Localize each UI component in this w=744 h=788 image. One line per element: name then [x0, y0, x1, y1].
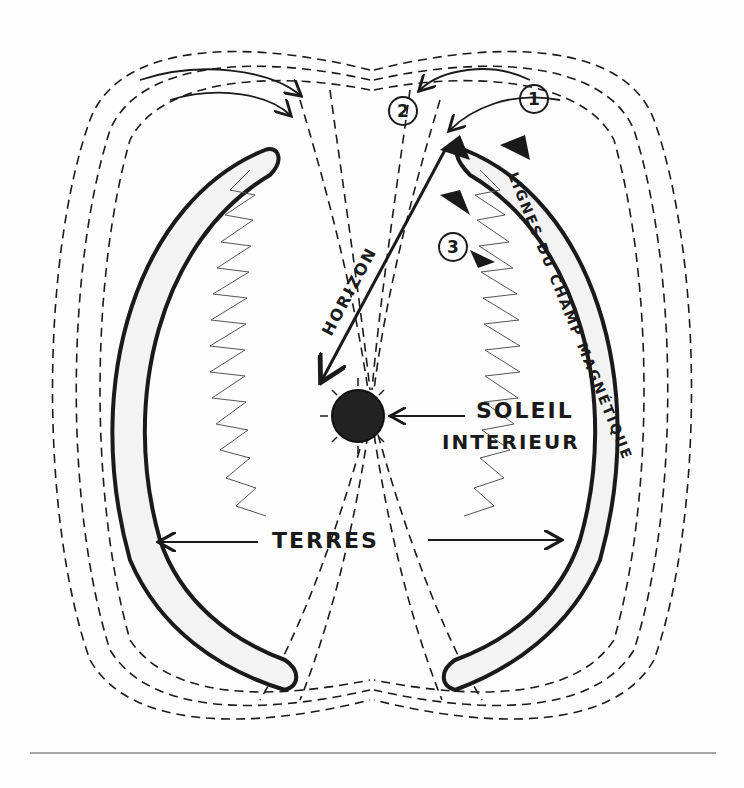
marker-1: 1 — [519, 84, 549, 114]
field-arrows — [140, 69, 560, 130]
left-earth — [112, 149, 296, 690]
inner-sun — [320, 378, 396, 454]
sun-label-line1: SOLEIL — [476, 398, 574, 423]
marker-2: 2 — [388, 96, 418, 126]
diagram-drawing — [0, 0, 744, 788]
hollow-earth-diagram: LIGNES DU CHAMP MAGNÉTIQUE HORIZON SOLEI… — [0, 0, 744, 788]
earths-label: TERRES — [272, 528, 379, 553]
sun-label-line2: INTERIEUR — [442, 430, 580, 454]
marker-3: 3 — [438, 232, 468, 262]
horizon-arrow — [322, 150, 445, 380]
